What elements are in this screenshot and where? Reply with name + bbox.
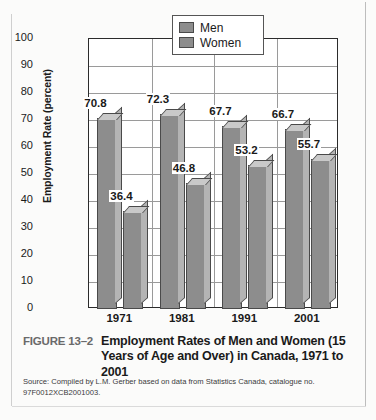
- gridline: [89, 120, 337, 121]
- gridline: [89, 93, 337, 94]
- bar-side-face: [266, 154, 273, 304]
- bar-women-2001: [311, 159, 331, 309]
- bar-side-face: [204, 171, 211, 304]
- figure-title: Employment Rates of Men and Women (15 Ye…: [101, 334, 359, 380]
- legend-label-men: Men: [200, 21, 223, 35]
- plot-area: 70.836.472.346.867.753.266.755.7: [88, 38, 338, 308]
- bar-value-label: 53.2: [234, 144, 258, 156]
- bar-value-label: 66.7: [271, 108, 295, 120]
- legend-swatch-women-icon: [179, 37, 194, 48]
- category-separator: [277, 39, 278, 307]
- bar-value-label: 67.7: [208, 105, 232, 117]
- y-axis-tick-label: 90: [0, 58, 33, 70]
- bar-side-face: [240, 115, 247, 304]
- x-axis-tick-label: 1991: [213, 312, 275, 324]
- chart-legend[interactable]: Men Women: [172, 15, 264, 55]
- bar-side-face: [115, 107, 122, 304]
- bar-value-label: 70.8: [83, 97, 107, 109]
- y-axis-title: Employment Rate (percent): [41, 26, 53, 246]
- bar-value-label: 55.7: [297, 138, 321, 150]
- bar-women-1991: [248, 165, 268, 309]
- x-axis-tick-label: 1971: [88, 312, 150, 324]
- y-axis-tick-label: 70: [0, 112, 33, 124]
- bar-value-label: 36.4: [109, 190, 133, 202]
- bar-side-face: [141, 199, 148, 304]
- figure-number: FIGURE 13–2: [23, 334, 93, 380]
- bar-chart: Employment Rate (percent) 10090807060504…: [0, 0, 376, 330]
- x-axis-tick-label: 2001: [276, 312, 338, 324]
- x-axis-tick-label: 1981: [151, 312, 213, 324]
- category-separator: [152, 39, 153, 307]
- y-axis-tick-label: 60: [0, 139, 33, 151]
- y-axis-tick-label: 20: [0, 247, 33, 259]
- bar-women-1971: [123, 211, 143, 309]
- figure-page: Employment Rate (percent) 10090807060504…: [0, 0, 376, 420]
- bar-men-1981: [160, 114, 180, 309]
- bar-side-face: [329, 147, 336, 304]
- bar-men-1971: [97, 118, 117, 309]
- bar-value-label: 72.3: [146, 93, 170, 105]
- figure-source-note: Source: Compiled by L.M. Gerber based on…: [23, 376, 353, 398]
- y-axis-tick-label: 50: [0, 166, 33, 178]
- legend-swatch-men-icon: [179, 22, 194, 33]
- page-frame-bottom-rule: [12, 406, 366, 407]
- legend-item-men[interactable]: Men: [179, 20, 258, 35]
- y-axis-tick-label: 10: [0, 274, 33, 286]
- y-axis-tick-label: 80: [0, 85, 33, 97]
- bar-value-label: 46.8: [172, 162, 196, 174]
- category-separator: [214, 39, 215, 307]
- bar-side-face: [178, 102, 185, 304]
- legend-item-women[interactable]: Women: [179, 35, 258, 50]
- y-axis-tick-label: 0: [0, 301, 33, 313]
- y-axis-tick-label: 100: [0, 31, 33, 43]
- bar-men-2001: [285, 129, 305, 309]
- legend-label-women: Women: [200, 36, 241, 50]
- y-axis-tick-label: 40: [0, 193, 33, 205]
- bar-women-1981: [186, 183, 206, 309]
- y-axis-tick-label: 30: [0, 220, 33, 232]
- gridline: [89, 66, 337, 67]
- figure-caption: FIGURE 13–2 Employment Rates of Men and …: [23, 334, 359, 380]
